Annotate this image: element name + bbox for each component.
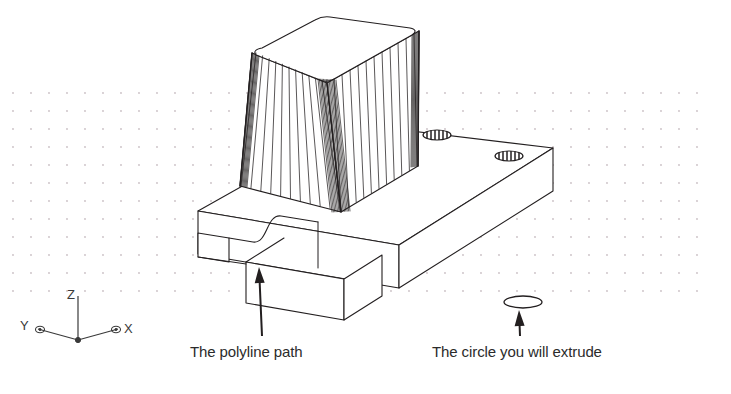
grid-dot	[678, 182, 680, 184]
grid-dot	[678, 254, 680, 256]
grid-dot	[174, 218, 176, 220]
grid-dot	[30, 236, 32, 238]
grid-dot	[66, 272, 68, 274]
grid-dot	[120, 254, 122, 256]
grid-dot	[624, 272, 626, 274]
grid-dot	[66, 236, 68, 238]
grid-dot	[426, 290, 428, 292]
grid-dot	[102, 92, 104, 94]
grid-dot	[12, 290, 14, 292]
grid-dot	[66, 92, 68, 94]
grid-dot	[228, 92, 230, 94]
grid-dot	[552, 110, 554, 112]
grid-dot	[156, 236, 158, 238]
grid-dot	[84, 164, 86, 166]
grid-dot	[66, 218, 68, 220]
grid-dot	[48, 92, 50, 94]
grid-dot	[624, 92, 626, 94]
grid-dot	[696, 290, 698, 292]
grid-dot	[642, 272, 644, 274]
top-hole-left	[423, 129, 451, 141]
grid-dot	[12, 146, 14, 148]
grid-dot	[606, 164, 608, 166]
grid-dot	[66, 200, 68, 202]
grid-dot	[660, 236, 662, 238]
grid-dot	[462, 272, 464, 274]
grid-dot	[192, 254, 194, 256]
grid-dot	[624, 182, 626, 184]
grid-dot	[48, 128, 50, 130]
grid-dot	[228, 110, 230, 112]
grid-dot	[102, 128, 104, 130]
grid-dot	[660, 272, 662, 274]
grid-dot	[516, 110, 518, 112]
grid-dot	[120, 110, 122, 112]
grid-dot	[660, 146, 662, 148]
grid-dot	[66, 110, 68, 112]
grid-dot	[84, 128, 86, 130]
grid-dot	[606, 200, 608, 202]
grid-dot	[120, 182, 122, 184]
grid-dot	[660, 218, 662, 220]
grid-dot	[588, 182, 590, 184]
grid-dot	[570, 182, 572, 184]
grid-dot	[588, 254, 590, 256]
grid-dot	[30, 92, 32, 94]
grid-dot	[66, 254, 68, 256]
grid-dot	[12, 182, 14, 184]
grid-dot	[12, 254, 14, 256]
grid-dot	[138, 92, 140, 94]
grid-dot	[660, 110, 662, 112]
grid-dot	[228, 290, 230, 292]
grid-dot	[660, 164, 662, 166]
grid-dot	[642, 200, 644, 202]
grid-dot	[642, 92, 644, 94]
grid-dot	[444, 110, 446, 112]
grid-dot	[444, 92, 446, 94]
grid-dot	[138, 110, 140, 112]
grid-dot	[84, 254, 86, 256]
grid-dot	[498, 92, 500, 94]
grid-dot	[516, 290, 518, 292]
grid-dot	[102, 218, 104, 220]
grid-dot	[516, 254, 518, 256]
grid-dot	[678, 128, 680, 130]
grid-dot	[588, 290, 590, 292]
grid-dot	[228, 272, 230, 274]
grid-dot	[48, 254, 50, 256]
grid-dot	[120, 128, 122, 130]
grid-dot	[12, 110, 14, 112]
grid-dot	[12, 218, 14, 220]
grid-dot	[156, 110, 158, 112]
grid-dot	[696, 254, 698, 256]
grid-dot	[12, 92, 14, 94]
grid-dot	[696, 146, 698, 148]
grid-dot	[156, 218, 158, 220]
grid-dot	[696, 272, 698, 274]
grid-dot	[678, 236, 680, 238]
grid-dot	[498, 254, 500, 256]
extrude-circle	[504, 296, 542, 308]
grid-dot	[516, 236, 518, 238]
grid-dot	[138, 218, 140, 220]
grid-dot	[498, 110, 500, 112]
grid-dot	[84, 272, 86, 274]
grid-dot	[138, 128, 140, 130]
grid-dot	[678, 200, 680, 202]
grid-dot	[84, 92, 86, 94]
grid-dot	[66, 128, 68, 130]
grid-dot	[12, 164, 14, 166]
grid-dot	[138, 254, 140, 256]
grid-dot	[624, 290, 626, 292]
grid-dot	[210, 290, 212, 292]
annotation-label-polyline-path: The polyline path	[190, 343, 303, 360]
grid-dot	[156, 200, 158, 202]
grid-dot	[138, 146, 140, 148]
grid-dot	[642, 110, 644, 112]
grid-dot	[642, 146, 644, 148]
grid-dot	[174, 236, 176, 238]
grid-dot	[426, 92, 428, 94]
grid-dot	[534, 128, 536, 130]
grid-dot	[498, 290, 500, 292]
grid-dot	[102, 272, 104, 274]
